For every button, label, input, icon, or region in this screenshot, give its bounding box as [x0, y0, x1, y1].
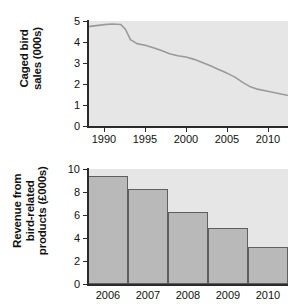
- bar-2006: [88, 176, 128, 284]
- bar-ytick-label-0: 0: [56, 278, 80, 290]
- bar-ytick-label-6: 6: [56, 209, 80, 221]
- bar-y-title-line-3: products (£000s): [36, 153, 49, 268]
- line-xtick-mark-2000: [186, 128, 187, 132]
- bar-chart-x-axis: [87, 284, 288, 286]
- bar-chart-y-axis: [87, 168, 89, 286]
- line-chart-y-axis: [87, 20, 89, 128]
- bar-chart-y-axis-title: Revenue from bird-related products (£000…: [11, 153, 49, 268]
- bar-2007: [128, 189, 168, 284]
- bar-chart-plot-area: [88, 169, 288, 284]
- caged-bird-sales-line: [88, 24, 287, 95]
- line-xtick-mark-2005: [227, 128, 228, 132]
- bar-2008: [168, 212, 208, 284]
- bar-2009: [208, 228, 248, 284]
- bar-y-title-line-2: bird-related: [23, 153, 36, 268]
- bar-ytick-label-10: 10: [56, 163, 80, 175]
- line-ytick-label-2: 2: [62, 78, 80, 90]
- bar-series-container: [88, 169, 288, 284]
- bar-ytick-label-4: 4: [56, 232, 80, 244]
- line-xtick-label-2000: 2000: [166, 133, 206, 145]
- bar-ytick-label-2: 2: [56, 255, 80, 267]
- line-chart-figure: Caged bird sales (000s) 5 4 3 2 1 0 1990…: [0, 0, 307, 152]
- line-xtick-label-2010: 2010: [248, 133, 288, 145]
- line-xtick-label-2005: 2005: [207, 133, 247, 145]
- line-y-title-line-1: Caged bird: [18, 14, 31, 104]
- line-chart-x-axis: [87, 126, 288, 128]
- bar-ytick-label-8: 8: [56, 186, 80, 198]
- bar-xtick-label-2007: 2007: [128, 289, 168, 301]
- bar-xtick-label-2006: 2006: [88, 289, 128, 301]
- line-xtick-mark-2010: [268, 128, 269, 132]
- line-xtick-label-1990: 1990: [84, 133, 124, 145]
- bar-chart-figure: Revenue from bird-related products (£000…: [0, 152, 307, 304]
- bar-2010: [248, 247, 288, 284]
- line-xtick-mark-1990: [104, 128, 105, 132]
- bar-y-title-line-1: Revenue from: [11, 153, 24, 268]
- bar-xtick-label-2010: 2010: [248, 289, 288, 301]
- line-ytick-label-0: 0: [62, 120, 80, 132]
- line-chart-y-axis-title: Caged bird sales (000s): [18, 14, 43, 104]
- line-ytick-label-5: 5: [62, 15, 80, 27]
- line-xtick-mark-1995: [145, 128, 146, 132]
- line-series-svg: [88, 21, 288, 126]
- bar-xtick-label-2008: 2008: [168, 289, 208, 301]
- line-ytick-label-1: 1: [62, 99, 80, 111]
- line-ytick-label-4: 4: [62, 36, 80, 48]
- line-y-title-line-2: sales (000s): [30, 14, 43, 104]
- bar-xtick-label-2009: 2009: [208, 289, 248, 301]
- line-chart-plot-area: [88, 21, 288, 126]
- line-xtick-label-1995: 1995: [125, 133, 165, 145]
- line-ytick-label-3: 3: [62, 57, 80, 69]
